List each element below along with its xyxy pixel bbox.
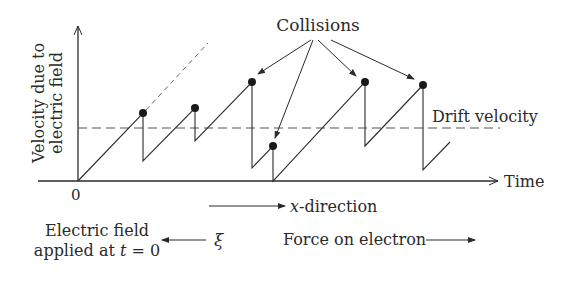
drift-velocity-label: Drift velocity (432, 107, 538, 126)
collision-dot (419, 81, 427, 89)
electric-field-label-line1: Electric field (45, 221, 149, 240)
y-axis-label-line1: Velocity due to (29, 43, 48, 164)
collision-arrow (318, 40, 356, 76)
collision-arrow (275, 40, 313, 138)
drift-velocity-diagram: Collisions Drift velocity Time 0 Velocit… (0, 0, 582, 287)
x-direction-label: x-direction (290, 197, 377, 216)
no-collision-extension (146, 43, 208, 110)
collision-arrows (258, 40, 414, 138)
electric-field-label-line2: applied at t = 0 (34, 241, 160, 260)
collision-dot (361, 78, 369, 86)
collision-points (139, 78, 427, 150)
origin-label: 0 (71, 186, 81, 204)
collision-arrow (331, 40, 414, 79)
collision-dot (191, 104, 199, 112)
collisions-label: Collisions (276, 15, 360, 35)
velocity-sawtooth (78, 82, 450, 181)
y-axis-label-line2: electric field (47, 52, 66, 154)
collision-dot (139, 109, 147, 117)
collision-dot (269, 142, 277, 150)
collision-arrow (258, 40, 311, 74)
collision-dot (248, 78, 256, 86)
field-symbol: ξ (214, 230, 225, 250)
force-label: Force on electron (283, 230, 426, 249)
time-axis-label: Time (504, 172, 544, 191)
